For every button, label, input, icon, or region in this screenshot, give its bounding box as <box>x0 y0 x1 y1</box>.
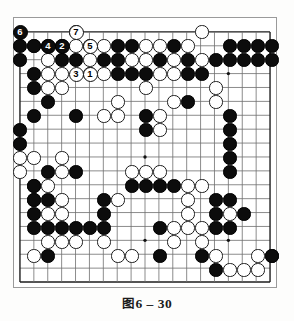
move-number-layer: 1234567 <box>14 18 276 287</box>
move-number-5: 5 <box>83 39 98 54</box>
move-number-6: 6 <box>13 25 28 40</box>
figure-container: 1234567 图6 – 30 <box>0 0 294 321</box>
go-board[interactable]: 1234567 <box>13 17 277 288</box>
caption-number: 6 – 30 <box>135 296 172 311</box>
caption-label: 图 <box>122 296 136 311</box>
move-number-3: 3 <box>69 67 84 82</box>
figure-caption: 图6 – 30 <box>0 293 294 312</box>
move-number-7: 7 <box>69 25 84 40</box>
move-number-4: 4 <box>41 39 56 54</box>
move-number-2: 2 <box>55 39 70 54</box>
move-number-1: 1 <box>83 67 98 82</box>
